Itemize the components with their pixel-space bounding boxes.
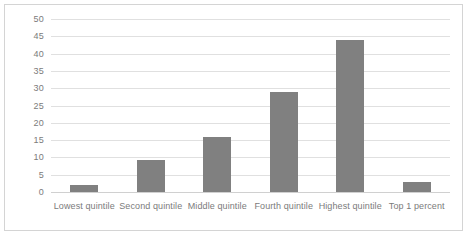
bar-slot xyxy=(251,19,318,192)
category-label: Second quintile xyxy=(118,196,185,216)
gridline-0: 0 xyxy=(51,192,450,193)
y-axis-tick-label: 30 xyxy=(34,83,44,93)
bar xyxy=(270,92,298,192)
category-axis: Lowest quintileSecond quintileMiddle qui… xyxy=(51,196,450,216)
category-label: Fourth quintile xyxy=(251,196,318,216)
bar xyxy=(137,160,165,192)
bar xyxy=(70,185,98,192)
category-label: Highest quintile xyxy=(317,196,384,216)
bar-series xyxy=(51,19,450,192)
category-label: Lowest quintile xyxy=(51,196,118,216)
y-axis-tick-label: 35 xyxy=(34,66,44,76)
y-axis-tick-label: 5 xyxy=(39,170,44,180)
bar-slot xyxy=(184,19,251,192)
bar xyxy=(203,137,231,192)
bar-slot xyxy=(118,19,185,192)
y-axis-tick-label: 15 xyxy=(34,135,44,145)
y-axis-tick-label: 45 xyxy=(34,31,44,41)
y-axis-tick-label: 40 xyxy=(34,49,44,59)
bar xyxy=(403,182,431,192)
y-axis-tick-label: 50 xyxy=(34,14,44,24)
bar-slot xyxy=(51,19,118,192)
category-label: Middle quintile xyxy=(184,196,251,216)
category-label: Top 1 percent xyxy=(384,196,451,216)
plot-area: 50454035302520151050 xyxy=(51,19,450,192)
y-axis-tick-label: 20 xyxy=(34,118,44,128)
bar xyxy=(336,40,364,192)
chart-frame: 50454035302520151050 Lowest quintileSeco… xyxy=(4,4,463,231)
y-axis-tick-label: 25 xyxy=(34,101,44,111)
y-axis-tick-label: 10 xyxy=(34,152,44,162)
bar-slot xyxy=(317,19,384,192)
y-axis-tick-label: 0 xyxy=(39,187,44,197)
bar-slot xyxy=(384,19,451,192)
